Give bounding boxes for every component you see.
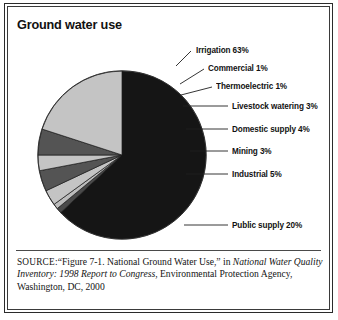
page-title: Ground water use [17,17,122,32]
pie-slice-group [38,71,206,239]
source-text-1: “Figure 7-1. National Ground Water Use,”… [58,256,233,267]
source-divider [16,250,321,251]
slice-label-irrigation: Irrigation 63% [196,45,249,55]
slice-label-thermoelectric: Thermoelectric 1% [216,81,287,91]
pie-chart-svg [34,67,210,243]
slice-label-domestic-supply: Domestic supply 4% [232,124,310,134]
slice-label-public-supply: Public supply 20% [232,220,302,230]
source-prefix: SOURCE: [17,257,58,267]
figure-container: Ground water use Irrigation 63% Commerci… [0,0,338,320]
slice-label-commercial: Commercial 1% [208,63,268,73]
pie-chart [34,67,210,243]
slice-label-mining: Mining 3% [232,146,272,156]
slice-label-livestock-watering: Livestock watering 3% [232,101,318,111]
source-note: SOURCE:“Figure 7-1. National Ground Wate… [17,256,323,293]
slice-label-industrial: Industrial 5% [232,169,282,179]
